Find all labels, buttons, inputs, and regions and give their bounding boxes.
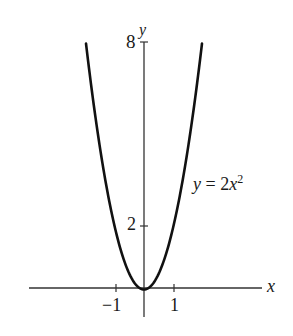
x-tick-label-neg1: −1: [102, 296, 121, 314]
curve-label-prefix: y = 2: [193, 174, 229, 194]
x-axis-label: x: [267, 277, 275, 295]
parabola-chart: [0, 0, 293, 336]
x-tick-label-1: 1: [170, 296, 179, 314]
curve-label: y = 2x2: [193, 173, 243, 193]
y-tick-label-8: 8: [126, 32, 136, 51]
curve-label-exp: 2: [237, 172, 243, 186]
y-axis-label: y: [139, 22, 146, 38]
curve-label-var: x: [229, 174, 237, 194]
y-tick-label-2: 2: [127, 215, 136, 233]
